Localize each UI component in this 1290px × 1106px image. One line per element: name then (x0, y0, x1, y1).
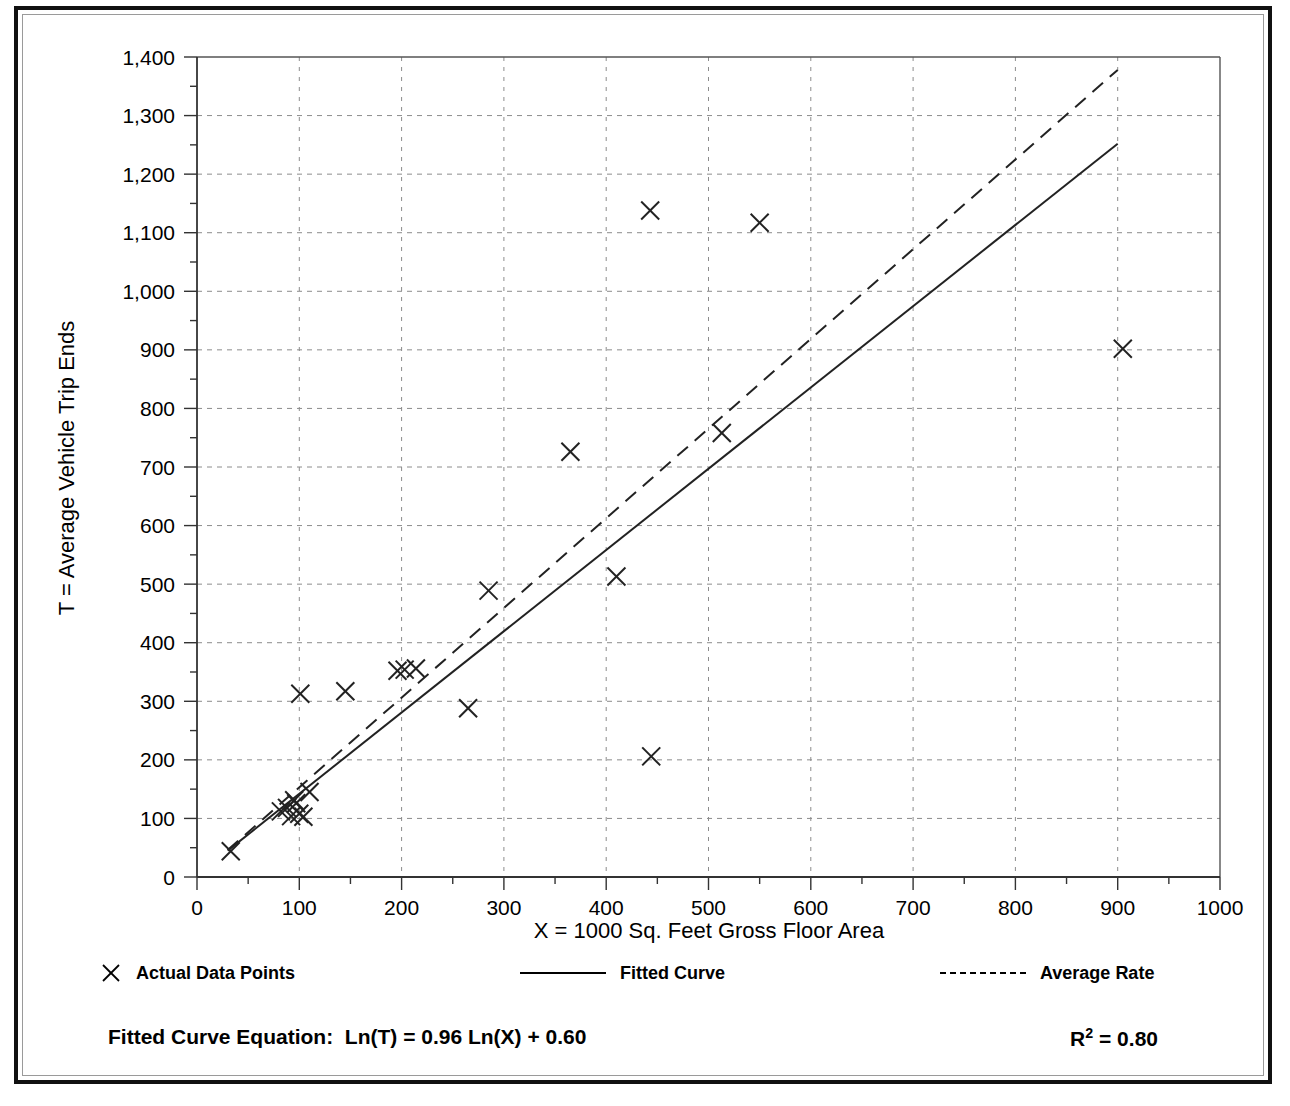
x-tick-label: 200 (384, 896, 419, 919)
y-tick-label: 1,300 (122, 104, 175, 127)
data-point-marker (222, 842, 240, 860)
y-tick-label: 1,000 (122, 280, 175, 303)
y-tick-label: 1,400 (122, 46, 175, 69)
y-tick-label: 500 (140, 573, 175, 596)
data-point-marker (641, 201, 659, 219)
x-tick-label: 500 (691, 896, 726, 919)
x-tick-label: 400 (589, 896, 624, 919)
plot-area: 01002003004005006007008009001,0001,1001,… (0, 0, 1290, 1106)
chart-footer: Fitted Curve Equation: Ln(T) = 0.96 Ln(X… (108, 1025, 1208, 1065)
y-tick-label: 700 (140, 456, 175, 479)
x-tick-label: 100 (282, 896, 317, 919)
data-point-marker (1114, 340, 1132, 358)
data-point-marker (336, 682, 354, 700)
data-point-markers (222, 201, 1132, 860)
y-tick-label: 900 (140, 338, 175, 361)
equation-expression: Ln(T) = 0.96 Ln(X) + 0.60 (345, 1025, 587, 1048)
x-axis-title: X = 1000 Sq. Feet Gross Floor Area (534, 918, 885, 943)
fitted-curve-line (228, 144, 1118, 851)
x-tick-label: 0 (191, 896, 203, 919)
dashed-line-icon (940, 972, 1026, 974)
data-point-marker (291, 685, 309, 703)
x-tick-label: 800 (998, 896, 1033, 919)
average-rate-line (228, 70, 1118, 850)
data-point-marker (459, 699, 477, 717)
y-tick-label: 1,100 (122, 221, 175, 244)
y-axis-title: T = Average Vehicle Trip Ends (54, 321, 79, 616)
chart-legend: Actual Data Points Fitted Curve Average … (100, 955, 1210, 991)
x-tick-label: 600 (793, 896, 828, 919)
chart-page: 01002003004005006007008009001,0001,1001,… (0, 0, 1290, 1106)
legend-label: Actual Data Points (136, 963, 295, 984)
y-tick-label: 800 (140, 397, 175, 420)
y-tick-label: 300 (140, 690, 175, 713)
y-tick-label: 400 (140, 631, 175, 654)
trend-lines (228, 70, 1118, 851)
x-tick-label: 900 (1100, 896, 1135, 919)
equation-label: Fitted Curve Equation: (108, 1025, 333, 1048)
data-point-marker (751, 214, 769, 232)
r-squared-value: R2 = 0.80 (1070, 1025, 1158, 1051)
data-point-marker (642, 747, 660, 765)
y-tick-label: 0 (163, 866, 175, 889)
y-tick-label: 1,200 (122, 163, 175, 186)
solid-line-icon (520, 972, 606, 974)
fitted-curve-equation: Fitted Curve Equation: Ln(T) = 0.96 Ln(X… (108, 1025, 586, 1049)
y-tick-label: 600 (140, 514, 175, 537)
legend-item-actual-data-points: Actual Data Points (100, 955, 295, 991)
data-point-marker (561, 443, 579, 461)
data-point-marker (407, 659, 425, 677)
x-marker-icon (100, 962, 122, 984)
data-point-marker (607, 568, 625, 586)
y-tick-label: 100 (140, 807, 175, 830)
x-tick-label: 1000 (1197, 896, 1244, 919)
legend-item-average-rate: Average Rate (940, 955, 1154, 991)
x-tick-label: 300 (486, 896, 521, 919)
r-squared-number: = 0.80 (1093, 1027, 1158, 1050)
r-squared-exponent: 2 (1085, 1025, 1093, 1041)
legend-label: Average Rate (1040, 963, 1154, 984)
data-point-marker (713, 424, 731, 442)
legend-item-fitted-curve: Fitted Curve (520, 955, 725, 991)
legend-label: Fitted Curve (620, 963, 725, 984)
r-squared-prefix: R (1070, 1027, 1085, 1050)
x-tick-label: 700 (896, 896, 931, 919)
y-tick-label: 200 (140, 748, 175, 771)
scatter-chart: 01002003004005006007008009001,0001,1001,… (0, 0, 1290, 1106)
